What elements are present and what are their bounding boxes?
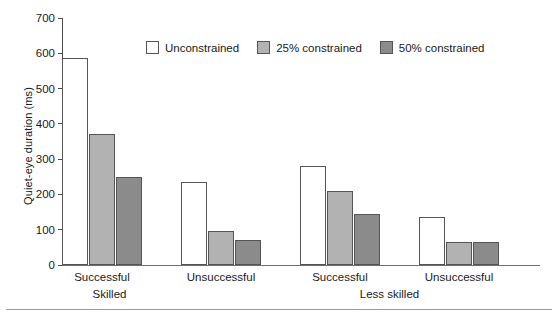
legend-label: 50% constrained <box>399 42 485 54</box>
bar <box>446 242 472 265</box>
y-tick-label: 600 <box>36 47 58 59</box>
y-tick-400: 400 <box>36 118 62 130</box>
y-tick-label: 500 <box>36 83 58 95</box>
y-axis-title: Quiet-eye duration (ms) <box>22 51 34 241</box>
legend-label: 25% constrained <box>276 42 362 54</box>
bar-group <box>300 18 381 265</box>
legend-item: 50% constrained <box>380 41 485 54</box>
legend-label: Unconstrained <box>165 42 239 54</box>
bar <box>235 240 261 265</box>
x-tick-label: Successful <box>74 271 130 283</box>
chart-legend: Unconstrained25% constrained50% constrai… <box>146 41 485 54</box>
footer-rule <box>6 309 552 310</box>
legend-swatch-icon <box>257 41 270 54</box>
bar <box>473 242 499 265</box>
bar-group <box>62 18 143 265</box>
y-tick-0: 0 <box>49 259 62 271</box>
x-tick-label: Unsuccessful <box>187 271 255 283</box>
y-tick-label: 100 <box>36 224 58 236</box>
y-tick-100: 100 <box>36 224 62 236</box>
y-tick-label: 0 <box>49 259 58 271</box>
legend-item: 25% constrained <box>257 41 362 54</box>
y-tick-200: 200 <box>36 188 62 200</box>
legend-swatch-icon <box>380 41 393 54</box>
bar <box>116 177 142 265</box>
y-tick-500: 500 <box>36 83 62 95</box>
y-tick-300: 300 <box>36 153 62 165</box>
bar <box>208 231 234 265</box>
y-tick-label: 400 <box>36 118 58 130</box>
y-tick-label: 200 <box>36 188 58 200</box>
bar-group <box>419 18 500 265</box>
bar <box>89 134 115 265</box>
x-group-label: Skilled <box>93 288 127 300</box>
bar <box>354 214 380 265</box>
bar <box>419 217 445 265</box>
x-tick-label: Successful <box>312 271 368 283</box>
plot-area: 0100200300400500600700 <box>62 18 540 265</box>
bar <box>181 182 207 265</box>
x-tick-label: Unsuccessful <box>425 271 493 283</box>
legend-swatch-icon <box>146 41 159 54</box>
bar-group <box>181 18 262 265</box>
y-tick-label: 300 <box>36 153 58 165</box>
x-axis-baseline <box>62 265 540 266</box>
bar-chart-figure: Quiet-eye duration (ms) 0100200300400500… <box>0 0 558 321</box>
y-tick-label: 700 <box>36 12 58 24</box>
legend-item: Unconstrained <box>146 41 239 54</box>
bar <box>327 191 353 265</box>
bar <box>300 166 326 266</box>
x-group-label: Less skilled <box>360 288 419 300</box>
bar <box>62 58 88 265</box>
y-tick-700: 700 <box>36 12 62 24</box>
y-tick-600: 600 <box>36 47 62 59</box>
